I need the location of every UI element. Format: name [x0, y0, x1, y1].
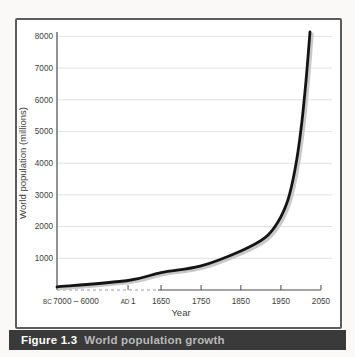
x-tick-label: 1750: [192, 297, 211, 306]
y-tick-label: 4000: [35, 159, 54, 168]
x-axis-title: Year: [171, 307, 190, 318]
y-tick-label: 1000: [35, 254, 54, 263]
y-axis-title: World population (millions): [17, 107, 28, 219]
x-tick-label: 1950: [272, 297, 291, 306]
figure-number: Figure 1.3: [21, 334, 77, 346]
figure-title: World population growth: [84, 334, 224, 346]
y-tick-label: 6000: [35, 96, 54, 105]
y-tick-label: 5000: [35, 127, 54, 136]
x-tick-label: 1850: [232, 297, 251, 306]
y-tick-label: 3000: [35, 191, 54, 200]
figure-scan: 10002000300040005000600070008000BC7000 –…: [0, 0, 355, 357]
x-tick-label: BC7000 – 6000: [43, 297, 99, 306]
figure-caption-bar: Figure 1.3World population growth: [9, 330, 346, 350]
y-tick-label: 8000: [35, 32, 54, 41]
y-tick-label: 7000: [35, 64, 54, 73]
population-curve: [57, 32, 310, 287]
population-curve-shadow: [59, 34, 312, 289]
population-chart-svg: 10002000300040005000600070008000BC7000 –…: [15, 18, 342, 329]
x-tick-label: 2050: [312, 297, 331, 306]
y-tick-label: 2000: [35, 222, 54, 231]
x-tick-label: AD1: [121, 297, 136, 306]
x-tick-label: 1650: [152, 297, 171, 306]
